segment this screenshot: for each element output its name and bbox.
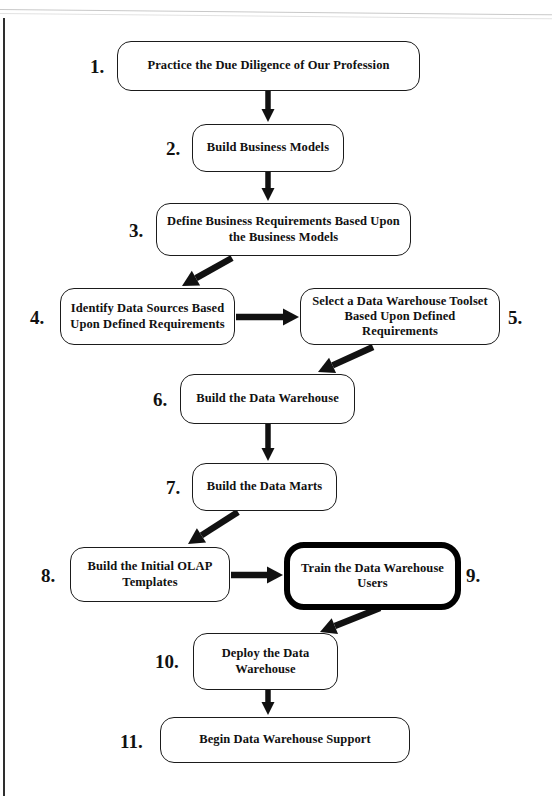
- flow-node-11-label: Begin Data Warehouse Support: [169, 732, 401, 747]
- arrow-5-to-6: [318, 347, 373, 373]
- flow-node-10[interactable]: Deploy the Data Warehouse: [193, 633, 338, 690]
- arrow-3-to-4: [182, 258, 232, 286]
- flow-node-7-label: Build the Data Marts: [201, 479, 328, 494]
- flow-node-2[interactable]: Build Business Models: [192, 124, 344, 172]
- flow-node-1-step-number: 1.: [90, 57, 104, 76]
- arrow-1-to-2: [262, 91, 275, 122]
- flow-node-6-step-number: 6.: [153, 390, 167, 409]
- arrow-9-to-10: [320, 608, 380, 634]
- flow-node-9-label: Train the Data Warehouse Users: [298, 561, 447, 592]
- flow-node-8-label: Build the Initial OLAP Templates: [79, 559, 221, 590]
- flowchart-page: Practice the Due Diligence of Our Profes…: [0, 0, 552, 812]
- flow-node-4[interactable]: Identify Data Sources Based Upon Defined…: [60, 288, 235, 345]
- flow-node-3-label: Define Business Requirements Based Upon …: [165, 214, 402, 245]
- flow-node-9[interactable]: Train the Data Warehouse Users: [284, 542, 461, 610]
- flow-node-4-label: Identify Data Sources Based Upon Defined…: [69, 301, 226, 332]
- flow-node-9-step-number: 9.: [466, 566, 480, 585]
- flow-node-7[interactable]: Build the Data Marts: [192, 463, 337, 511]
- flow-node-10-label: Deploy the Data Warehouse: [202, 646, 329, 677]
- flow-node-2-step-number: 2.: [166, 139, 180, 158]
- arrow-8-to-9: [231, 567, 283, 584]
- flow-node-7-step-number: 7.: [166, 478, 180, 497]
- flow-node-11-step-number: 11.: [120, 732, 143, 751]
- flow-node-3[interactable]: Define Business Requirements Based Upon …: [156, 203, 411, 256]
- flow-node-1-label: Practice the Due Diligence of Our Profes…: [126, 58, 411, 73]
- arrow-6-to-7: [262, 424, 275, 461]
- scan-edge-left-line: [3, 18, 5, 796]
- arrow-10-to-11: [262, 690, 275, 715]
- flow-node-11[interactable]: Begin Data Warehouse Support: [160, 717, 410, 763]
- flow-node-5[interactable]: Select a Data Warehouse Toolset Based Up…: [300, 288, 500, 345]
- flow-node-4-step-number: 4.: [30, 308, 44, 327]
- flow-node-10-step-number: 10.: [155, 652, 179, 671]
- arrow-4-to-5: [236, 309, 299, 326]
- flow-node-3-step-number: 3.: [129, 221, 143, 240]
- flow-node-6-label: Build the Data Warehouse: [189, 391, 346, 406]
- flow-node-5-step-number: 5.: [508, 308, 522, 327]
- flow-node-1[interactable]: Practice the Due Diligence of Our Profes…: [117, 41, 420, 91]
- flow-node-2-label: Build Business Models: [201, 140, 335, 155]
- arrow-2-to-3: [262, 172, 275, 201]
- flow-node-5-label: Select a Data Warehouse Toolset Based Up…: [309, 294, 491, 340]
- flow-node-8-step-number: 8.: [41, 566, 55, 585]
- flow-node-8[interactable]: Build the Initial OLAP Templates: [70, 547, 230, 602]
- flow-node-6[interactable]: Build the Data Warehouse: [180, 374, 355, 424]
- arrow-7-to-8: [188, 512, 238, 544]
